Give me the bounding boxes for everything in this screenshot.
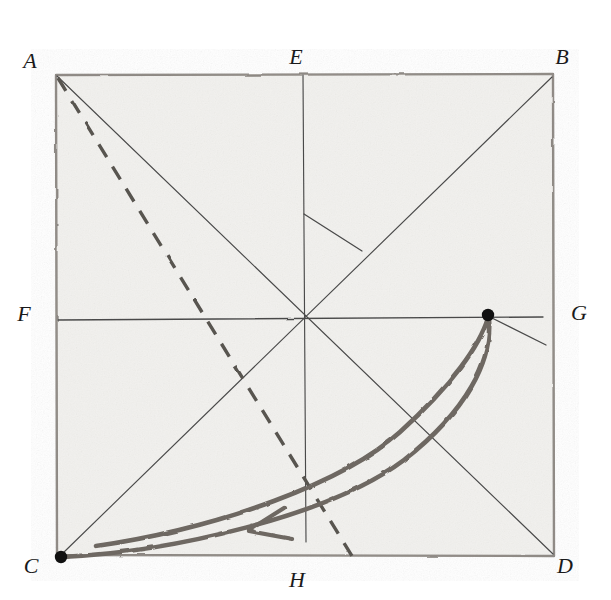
label-g: G	[571, 300, 587, 325]
label-d: D	[556, 553, 573, 578]
label-b: B	[555, 44, 568, 69]
label-c: C	[24, 553, 39, 578]
diagram-canvas: A E B F G C H D	[0, 0, 611, 600]
label-e: E	[288, 44, 303, 69]
label-f: F	[16, 301, 31, 326]
dot-c-marker	[55, 551, 67, 563]
geometric-figure: A E B F G C H D	[0, 0, 611, 600]
label-h: H	[288, 567, 306, 592]
dot-g-marker	[482, 309, 494, 321]
label-a: A	[21, 48, 37, 73]
